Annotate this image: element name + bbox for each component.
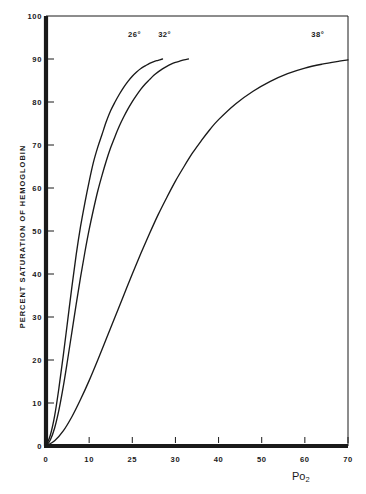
y-tick-label: 20 [16,356,42,365]
plot-frame [44,16,348,446]
series-label-38-deg: 38° [311,30,324,39]
data-curves [46,59,348,446]
y-tick-label: 40 [16,270,42,279]
x-tick-label: 0 [31,455,61,464]
y-axis-tick-labels: 0102030405060708090100 [12,0,42,494]
y-tick-label: 50 [16,227,42,236]
x-tick-label: 25 [117,455,147,464]
x-tick-label: 60 [290,455,320,464]
x-axis-tick-labels: 010253040506070 [0,455,366,473]
plot-area [0,0,366,494]
y-tick-label: 10 [16,399,42,408]
x-tick-label: 10 [74,455,104,464]
y-tick-label: 100 [16,12,42,21]
oxygen-dissociation-chart: PERCENT SATURATION OF HEMOGLOBIN 0102030… [0,0,366,494]
series-label-26-deg: 26° [128,30,141,39]
y-tick-label: 30 [16,313,42,322]
x-tick-label: 30 [160,455,190,464]
axis-ticks [48,59,348,443]
curve-38-deg [46,60,348,446]
curve-32-deg [46,59,188,446]
x-tick-label: 40 [204,455,234,464]
plot-frame-thin [46,16,348,446]
x-tick-label: 50 [247,455,277,464]
y-tick-label: 0 [16,442,42,451]
x-axis-title-text: Po [292,470,305,482]
x-axis-title: Po2 [292,470,310,484]
x-tick-label: 70 [333,455,363,464]
y-tick-label: 60 [16,184,42,193]
y-tick-label: 80 [16,98,42,107]
y-tick-label: 70 [16,141,42,150]
y-tick-label: 90 [16,55,42,64]
x-axis-title-subscript: 2 [305,475,309,484]
series-label-32-deg: 32° [158,30,171,39]
